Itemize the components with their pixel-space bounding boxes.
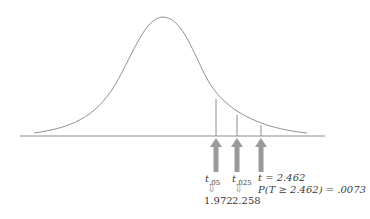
- t05-value: 1.972: [204, 195, 233, 206]
- t05-down-arrow-icon: ⇩: [207, 183, 216, 194]
- t025-value: 2.258: [232, 195, 261, 206]
- p-value-label: P(T ≥ 2.462) = .0073: [258, 184, 366, 195]
- t025-up-arrow-icon: [231, 138, 243, 172]
- t-statistic-label: t = 2.462: [258, 172, 305, 183]
- t05-up-arrow-icon: [210, 138, 222, 172]
- tstat-up-arrow-icon: [255, 138, 267, 172]
- t025-down-arrow-icon: ⇩: [234, 183, 243, 194]
- density-curve: [34, 17, 307, 133]
